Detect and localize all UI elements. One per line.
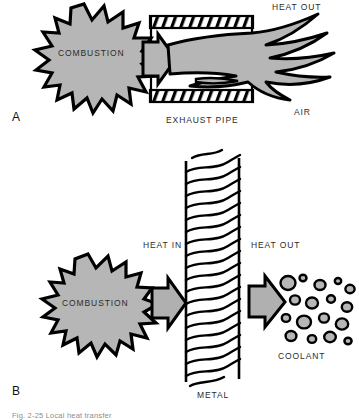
heat-in-arrow xyxy=(152,278,186,328)
label-heat-in-b: HEAT IN xyxy=(143,240,182,250)
label-combustion-a: COMBUSTION xyxy=(58,48,125,58)
figure-container: COMBUSTION HEAT OUT EXHAUST PIPE AIR A C… xyxy=(0,0,359,420)
coolant-bubbles xyxy=(281,275,355,345)
figure-caption: Fig. 2-25 Local heat transfer xyxy=(12,411,352,420)
label-air: AIR xyxy=(294,107,311,117)
metal-wall xyxy=(186,150,240,386)
panel-letter-a: A xyxy=(12,110,20,124)
label-combustion-b: COMBUSTION xyxy=(62,298,129,308)
panel-letter-b: B xyxy=(12,384,20,398)
panel-a-graphics xyxy=(35,4,334,113)
label-heat-out-b: HEAT OUT xyxy=(251,240,300,250)
label-heat-out-a: HEAT OUT xyxy=(272,2,321,12)
label-coolant: COOLANT xyxy=(278,351,325,361)
combustion-starburst-a xyxy=(35,4,158,113)
label-exhaust-pipe: EXHAUST PIPE xyxy=(166,115,239,125)
label-metal: METAL xyxy=(197,390,229,400)
